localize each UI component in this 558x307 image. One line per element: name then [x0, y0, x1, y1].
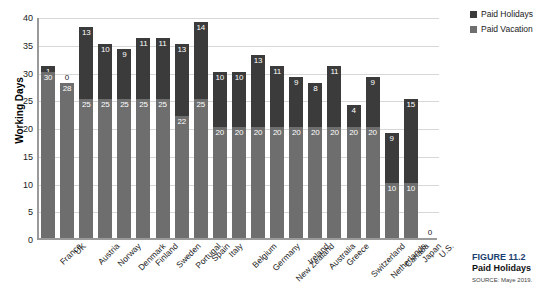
bar-segment-paid-vacation[interactable]: 20 [270, 127, 284, 238]
bar-segment-paid-vacation[interactable]: 22 [175, 116, 189, 238]
bar-segment-value: 15 [407, 99, 416, 109]
bar-segment-paid-holidays[interactable]: 11 [270, 66, 284, 127]
caption-source: SOURCE: Maye 2019. [472, 277, 558, 283]
y-axis-tick-label: 5 [28, 207, 33, 217]
bar-segment-value: 9 [122, 49, 126, 59]
bar-segment-paid-vacation[interactable]: 20 [251, 127, 265, 238]
bar-segment-value: 11 [273, 66, 281, 76]
bar-segment-paid-vacation[interactable]: 28 [60, 83, 74, 238]
bar-column[interactable]: 1425 [194, 16, 208, 238]
bar-segment-value: 20 [254, 127, 263, 137]
bar-segment-paid-holidays[interactable]: 13 [79, 27, 93, 99]
bar-column[interactable]: 925 [117, 16, 131, 238]
legend-item[interactable]: Paid Holidays [470, 9, 533, 19]
bar-segment-value: 10 [407, 183, 416, 193]
bar-segment-paid-holidays[interactable]: 9 [117, 49, 131, 99]
bar-value-label: 0 [65, 73, 69, 82]
y-axis-tick-label: 40 [23, 13, 33, 23]
bar-segment-value: 20 [235, 127, 244, 137]
bar-segment-value: 9 [370, 77, 374, 87]
legend-swatch-icon [470, 11, 477, 18]
bar-segment-paid-vacation[interactable]: 20 [289, 127, 303, 238]
bar-column[interactable]: 1125 [156, 16, 170, 238]
bar-segment-paid-holidays[interactable]: 4 [347, 105, 361, 127]
bar-segment-paid-holidays[interactable]: 15 [404, 99, 418, 182]
bar-segment-paid-holidays[interactable]: 11 [136, 38, 150, 99]
bar-column[interactable]: 920 [366, 16, 380, 238]
y-axis-title: Working Days [14, 56, 25, 166]
bar-segment-value: 25 [101, 99, 110, 109]
bar-segment-value: 20 [330, 127, 339, 137]
bar-segment-value: 30 [44, 72, 53, 82]
bar-segment-paid-holidays[interactable]: 13 [251, 55, 265, 127]
bar-column[interactable]: 1120 [270, 16, 284, 238]
bar-column[interactable]: 1125 [136, 16, 150, 238]
bar-column[interactable]: 028 [60, 16, 74, 238]
bar-segment-paid-vacation[interactable]: 20 [327, 127, 341, 238]
bar-segment-paid-holidays[interactable]: 9 [385, 133, 399, 183]
bar-segment-paid-vacation[interactable]: 20 [347, 127, 361, 238]
bar-segment-value: 28 [63, 83, 72, 93]
bar-column[interactable]: 910 [385, 16, 399, 238]
bar-column[interactable]: 1322 [175, 16, 189, 238]
bar-segment-paid-holidays[interactable]: 8 [308, 83, 322, 127]
bar-column[interactable]: 1020 [213, 16, 227, 238]
bar-segment-value: 20 [273, 127, 282, 137]
figure-container: 0510152025303540 Working Days 1300281325… [0, 0, 558, 307]
bar-segment-value: 9 [294, 77, 298, 87]
chart-legend: Paid HolidaysPaid Vacation [470, 9, 533, 39]
bar-segment-paid-vacation[interactable]: 10 [385, 183, 399, 239]
bar-column[interactable]: 1020 [232, 16, 246, 238]
bar-segment-paid-vacation[interactable]: 25 [117, 99, 131, 238]
bar-segment-paid-vacation[interactable]: 25 [136, 99, 150, 238]
bar-segment-paid-holidays[interactable]: 10 [98, 44, 112, 100]
bar-segment-paid-holidays[interactable]: 9 [289, 77, 303, 127]
x-axis-labels: FranceUKAustriaNorwayDenmarkFinlandSwede… [37, 241, 437, 307]
bar-segment-paid-vacation[interactable]: 20 [308, 127, 322, 238]
bar-column[interactable]: 1025 [98, 16, 112, 238]
bar-segment-value: 25 [197, 99, 206, 109]
bar-segment-value: 8 [313, 83, 317, 93]
y-axis-tick-label: 10 [23, 180, 33, 190]
bar-segment-paid-vacation[interactable]: 25 [156, 99, 170, 238]
bar-segment-paid-holidays[interactable]: 13 [175, 44, 189, 116]
bar-segment-paid-vacation[interactable]: 10 [404, 183, 418, 239]
bar-column[interactable]: 920 [289, 16, 303, 238]
bar-segment-value: 10 [387, 183, 396, 193]
bar-segment-paid-holidays[interactable]: 10 [232, 72, 246, 128]
bar-column[interactable]: 1325 [79, 16, 93, 238]
bar-segment-paid-vacation[interactable]: 20 [232, 127, 246, 238]
bar-segment-value: 20 [311, 127, 320, 137]
bar-segment-paid-vacation[interactable]: 20 [213, 127, 227, 238]
bar-segment-paid-vacation[interactable]: 30 [41, 72, 55, 239]
caption-figure-label: FIGURE 11.2 [472, 252, 558, 263]
bar-segment-paid-vacation[interactable]: 25 [79, 99, 93, 238]
bar-column[interactable]: 1510 [404, 16, 418, 238]
bar-segment-value: 9 [390, 133, 394, 143]
legend-item[interactable]: Paid Vacation [470, 24, 533, 34]
bar-segment-paid-vacation[interactable]: 25 [194, 99, 208, 238]
bar-segment-value: 20 [349, 127, 358, 137]
bar-segment-value: 25 [139, 99, 148, 109]
x-axis-tick-label: Italy [227, 241, 245, 259]
bar-segment-paid-vacation[interactable]: 25 [98, 99, 112, 238]
bar-column[interactable]: 1320 [251, 16, 265, 238]
figure-caption: FIGURE 11.2 Paid Holidays SOURCE: Maye 2… [472, 252, 558, 283]
bar-segment-paid-holidays[interactable]: 14 [194, 22, 208, 100]
bar-column[interactable]: 1120 [327, 16, 341, 238]
bar-column[interactable]: 420 [347, 16, 361, 238]
bar-segment-paid-holidays[interactable]: 9 [366, 77, 380, 127]
bar-segment-paid-holidays[interactable]: 11 [327, 66, 341, 127]
bar-segment-value: 11 [159, 38, 167, 48]
bar-column[interactable]: 820 [308, 16, 322, 238]
bar-segment-value: 25 [120, 99, 129, 109]
bar-segment-value: 20 [216, 127, 225, 137]
bar-column[interactable]: 130 [41, 16, 55, 238]
bar-segment-value: 10 [216, 72, 225, 82]
bar-column[interactable]: 0 [423, 16, 437, 238]
bar-segment-value: 10 [101, 44, 110, 54]
legend-label: Paid Vacation [481, 24, 533, 34]
bar-segment-paid-holidays[interactable]: 11 [156, 38, 170, 99]
bar-segment-paid-holidays[interactable]: 10 [213, 72, 227, 128]
bar-segment-paid-vacation[interactable]: 20 [366, 127, 380, 238]
